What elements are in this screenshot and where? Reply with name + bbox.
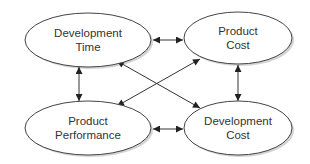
node-label-line1: Product — [68, 115, 108, 127]
node-product-cost: Product Cost — [184, 12, 292, 64]
tradeoff-diagram: Development Time Product Cost Product Pe… — [0, 0, 310, 164]
edge-prodperf-prodcost — [117, 59, 200, 106]
node-label-line1: Development — [54, 27, 123, 39]
diagram-canvas: Development Time Product Cost Product Pe… — [0, 0, 310, 164]
node-label-line1: Product — [218, 25, 258, 37]
node-label-line2: Time — [75, 41, 100, 53]
node-label-line2: Cost — [226, 129, 250, 141]
node-development-time: Development Time — [25, 13, 151, 67]
node-label-line2: Performance — [55, 129, 121, 141]
node-development-cost: Development Cost — [184, 101, 292, 155]
node-label-line1: Development — [204, 115, 273, 127]
node-product-performance: Product Performance — [25, 101, 151, 155]
edge-devtime-devcost — [117, 61, 200, 108]
node-label-line2: Cost — [226, 39, 250, 51]
